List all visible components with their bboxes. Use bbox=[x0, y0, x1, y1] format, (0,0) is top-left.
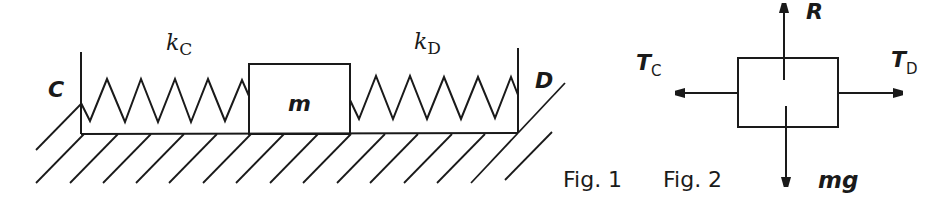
spring-d bbox=[350, 76, 518, 119]
diagram-canvas: C D m kC kD Fig. 1 R TC TD mg Fig. 2 bbox=[0, 0, 945, 205]
wall-left-label: C bbox=[48, 77, 64, 102]
spring-d-symbol: k bbox=[414, 29, 427, 54]
figure-2-caption: Fig. 2 bbox=[663, 167, 722, 192]
force-up-label: R bbox=[806, 0, 823, 24]
force-left-label: TC bbox=[636, 50, 662, 80]
mass-label: m bbox=[288, 91, 311, 116]
free-body-block bbox=[738, 58, 838, 127]
spring-c-label: kC bbox=[166, 30, 192, 59]
spring-d-label: kD bbox=[414, 29, 441, 58]
force-right-label: TD bbox=[891, 47, 918, 78]
wall-right-label: D bbox=[535, 68, 553, 93]
spring-d-subscript: D bbox=[427, 38, 441, 58]
figure-1: C D m kC kD Fig. 1 bbox=[36, 29, 622, 192]
spring-c-subscript: C bbox=[179, 39, 192, 59]
force-left-subscript: C bbox=[651, 62, 661, 80]
spring-c bbox=[81, 79, 249, 122]
figure-1-caption: Fig. 1 bbox=[563, 167, 622, 192]
force-down-label: mg bbox=[818, 167, 858, 193]
figure-2: R TC TD mg Fig. 2 bbox=[636, 0, 918, 193]
force-right-subscript: D bbox=[906, 60, 918, 78]
spring-c-symbol: k bbox=[166, 30, 179, 55]
